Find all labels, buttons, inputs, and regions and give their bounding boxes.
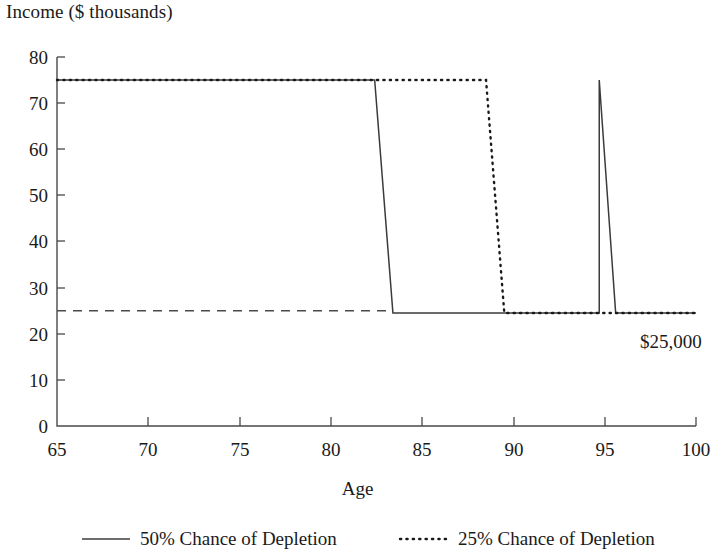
- series-25-percent-depletion: [57, 80, 696, 313]
- series-50-percent-depletion: [57, 80, 696, 313]
- y-tick-marks: [57, 57, 65, 380]
- legend-item-50-percent[interactable]: 50% Chance of Depletion: [82, 524, 337, 554]
- annotation-25000: $25,000: [640, 331, 702, 353]
- plot-area: [0, 0, 715, 558]
- chart-legend: 50% Chance of Depletion 25% Chance of De…: [0, 524, 715, 558]
- legend-solid-line-icon: [82, 532, 130, 546]
- x-axis-title: Age: [0, 478, 715, 500]
- legend-label-25-percent: 25% Chance of Depletion: [458, 528, 655, 550]
- legend-dotted-line-icon: [400, 532, 448, 546]
- income-depletion-chart: Income ($ thousands) 80 70 60 50 40 30 2…: [0, 0, 715, 558]
- legend-item-25-percent[interactable]: 25% Chance of Depletion: [400, 524, 655, 554]
- legend-label-50-percent: 50% Chance of Depletion: [140, 528, 337, 550]
- x-tick-marks: [148, 417, 696, 426]
